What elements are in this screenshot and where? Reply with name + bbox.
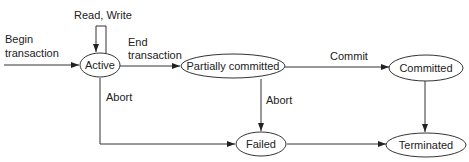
edge-label-read-write: Read, Write xyxy=(74,9,132,21)
node-label-partially-committed: Partially committed xyxy=(187,60,280,72)
edge-label-abort-partial: Abort xyxy=(266,94,292,106)
edge-label-end: End xyxy=(128,36,148,48)
edge-label-end-transaction: transaction xyxy=(128,49,182,61)
node-committed: Committed xyxy=(389,55,463,81)
edge-label-abort-active: Abort xyxy=(106,91,132,103)
node-label-committed: Committed xyxy=(399,62,452,74)
node-active: Active xyxy=(80,53,120,77)
edge-abort-active: Abort xyxy=(100,78,235,144)
node-failed: Failed xyxy=(236,132,286,156)
edge-end-transaction: End transaction xyxy=(120,36,182,66)
node-label-failed: Failed xyxy=(246,138,276,150)
edge-label-begin: Begin xyxy=(5,33,33,45)
node-terminated: Terminated xyxy=(386,133,466,157)
edge-label-commit: Commit xyxy=(330,50,368,62)
edge-abort-partial: Abort xyxy=(261,79,292,131)
edge-read-write-loop: Read, Write xyxy=(74,9,132,53)
edge-begin-transaction: Begin transaction xyxy=(4,33,79,65)
node-partially-committed: Partially committed xyxy=(181,54,285,78)
node-label-terminated: Terminated xyxy=(399,139,453,151)
edge-label-transaction: transaction xyxy=(5,47,59,59)
transaction-state-diagram: Begin transaction Read, Write End transa… xyxy=(0,0,469,162)
node-label-active: Active xyxy=(85,59,115,71)
edge-commit: Commit xyxy=(285,50,389,67)
